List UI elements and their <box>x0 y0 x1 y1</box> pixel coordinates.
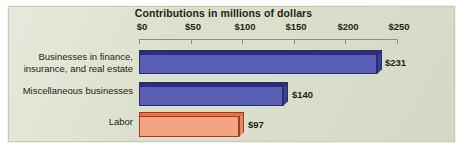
axis-tick-4 <box>345 39 346 44</box>
category-label-0: Businesses in finance, insurance, and re… <box>24 51 133 74</box>
bar-front-face-2 <box>139 116 239 137</box>
category-label-1: Miscellaneous businesses <box>23 85 133 97</box>
category-label-2: Labor <box>109 116 133 128</box>
axis-tick-1 <box>191 39 192 44</box>
plot-area: $0 $50 $100 $150 $200 $250 Businesses in… <box>0 0 447 136</box>
bar-value-label-0: $231 <box>385 57 406 68</box>
x-tick-label-0: $0 <box>137 21 148 32</box>
axis-tick-2 <box>242 39 243 44</box>
bar-value-label-1: $140 <box>292 89 313 100</box>
x-tick-label-4: $200 <box>337 21 358 32</box>
axis-tick-0 <box>139 39 140 44</box>
x-tick-label-2: $100 <box>234 21 255 32</box>
axis-tick-5 <box>397 39 398 44</box>
chart-figure: Contributions in millions of dollars $0 … <box>0 0 469 150</box>
bar-front-face-1 <box>139 86 283 106</box>
bar-value-label-2: $97 <box>248 119 264 130</box>
x-axis-line <box>139 39 397 40</box>
x-tick-label-1: $50 <box>185 21 201 32</box>
x-tick-label-3: $150 <box>285 21 306 32</box>
axis-tick-3 <box>294 39 295 44</box>
bar-front-face-0 <box>139 54 377 74</box>
x-tick-label-5: $250 <box>388 21 409 32</box>
